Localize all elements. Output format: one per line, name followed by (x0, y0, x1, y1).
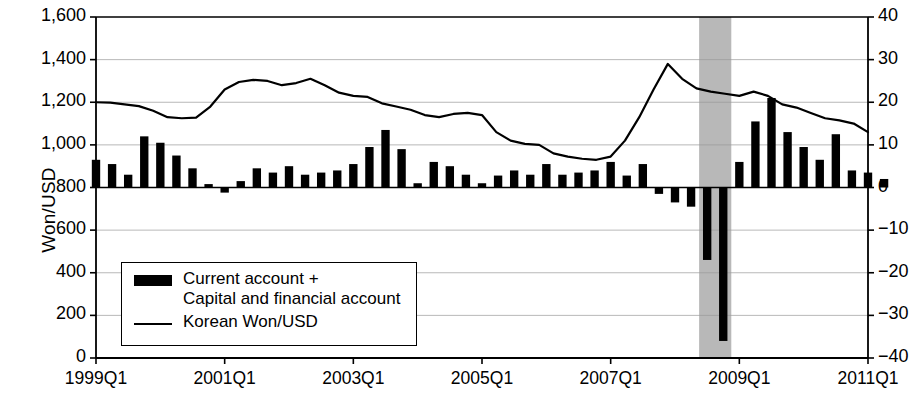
y-tick-label-right: 0 (878, 176, 919, 197)
bar (430, 162, 438, 188)
y-tick-label-left: 200 (10, 303, 86, 324)
y-tick-label-right: 10 (878, 133, 919, 154)
bar (269, 173, 277, 188)
bar (108, 164, 116, 187)
bar (623, 176, 631, 188)
bar (317, 173, 325, 188)
bar (397, 149, 405, 187)
y-tick-label-right: −10 (878, 218, 919, 239)
bar (719, 188, 727, 341)
legend-label: Current account + Capital and financial … (183, 269, 400, 309)
y-tick-label-left: 400 (10, 261, 86, 282)
bar (253, 168, 261, 187)
bar (156, 143, 164, 188)
y-tick-label-left: 0 (10, 346, 86, 367)
x-tick-label: 2011Q1 (813, 368, 919, 389)
chart-plot-area (0, 0, 919, 419)
bar (510, 170, 518, 187)
y-tick-label-left: 1,400 (10, 48, 86, 69)
bar (542, 164, 550, 187)
legend-entry: Korean Won/USD (132, 312, 406, 332)
legend-label: Korean Won/USD (183, 312, 318, 332)
x-tick-label: 2005Q1 (427, 368, 537, 389)
chart-figure: Won/USD 02004006008001,0001,2001,4001,60… (0, 0, 919, 419)
bar (848, 170, 856, 187)
chart-legend: Current account + Capital and financial … (121, 262, 417, 346)
y-tick-label-left: 1,600 (10, 5, 86, 26)
x-tick-label: 1999Q1 (41, 368, 151, 389)
bar (671, 188, 679, 203)
bar (333, 170, 341, 187)
y-tick-label-left: 800 (10, 176, 86, 197)
bar (590, 170, 598, 187)
bar (799, 147, 807, 187)
legend-entry: Current account + Capital and financial … (132, 269, 406, 309)
bar (816, 160, 824, 188)
bar (237, 181, 245, 187)
bar (751, 121, 759, 187)
y-tick-label-right: 30 (878, 48, 919, 69)
bar (446, 166, 454, 187)
bar (783, 132, 791, 187)
bar (735, 162, 743, 188)
y-tick-label-left: 600 (10, 218, 86, 239)
x-tick-label: 2007Q1 (556, 368, 666, 389)
bar (574, 173, 582, 188)
bar (365, 147, 373, 187)
bar (462, 175, 470, 188)
bar (381, 130, 389, 188)
bar (526, 175, 534, 188)
bar (703, 188, 711, 260)
y-tick-label-left: 1,200 (10, 90, 86, 111)
bar (687, 188, 695, 207)
bar (285, 166, 293, 187)
legend-bar-swatch-icon (134, 275, 172, 286)
bar (140, 136, 148, 187)
bar (558, 175, 566, 188)
bar (349, 164, 357, 187)
bar (639, 164, 647, 187)
x-tick-label: 2009Q1 (684, 368, 794, 389)
bar (494, 176, 502, 188)
bar (655, 188, 663, 194)
y-tick-label-right: −30 (878, 303, 919, 324)
y-tick-label-right: 40 (878, 5, 919, 26)
x-tick-label: 2001Q1 (170, 368, 280, 389)
y-tick-label-right: 20 (878, 90, 919, 111)
y-tick-label-right: −40 (878, 346, 919, 367)
legend-line-swatch-icon (134, 323, 172, 325)
y-tick-label-left: 1,000 (10, 133, 86, 154)
bar (606, 162, 614, 188)
bar (188, 168, 196, 187)
bar (172, 156, 180, 188)
bar (767, 98, 775, 188)
y-tick-label-right: −20 (878, 261, 919, 282)
x-tick-label: 2003Q1 (298, 368, 408, 389)
bar (301, 175, 309, 188)
bar (832, 134, 840, 187)
bar (124, 175, 132, 188)
